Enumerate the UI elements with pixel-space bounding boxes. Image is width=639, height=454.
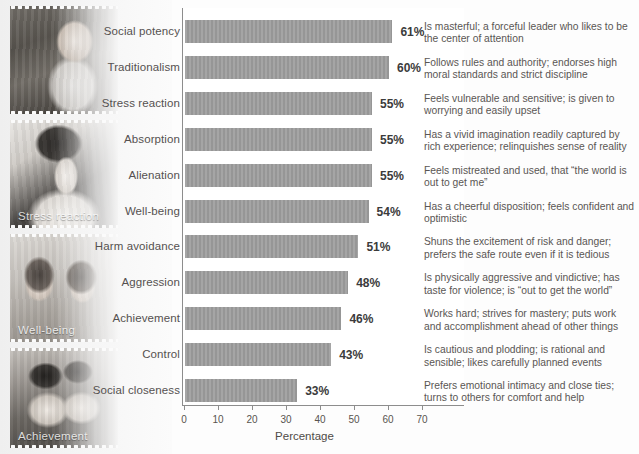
trait-description: Has a cheerful disposition; feels confid…	[424, 201, 636, 226]
category-label: Social potency	[4, 25, 180, 37]
value-label: 55%	[380, 169, 404, 183]
category-label: Absorption	[4, 133, 180, 145]
value-label: 61%	[400, 25, 424, 39]
value-label: 33%	[305, 384, 329, 398]
axis-tick-mark	[354, 406, 355, 410]
trait-description: Prefers emotional intimacy and close tie…	[424, 380, 636, 405]
trait-description: Shuns the excitement of risk and danger;…	[424, 236, 636, 261]
axis-tick-label: 0	[181, 414, 187, 425]
trait-description: Has a vivid imagination readily captured…	[424, 129, 636, 154]
category-label: Well-being	[4, 205, 180, 217]
bar	[185, 128, 372, 151]
value-label: 48%	[356, 276, 380, 290]
value-label: 54%	[377, 205, 401, 219]
bar	[185, 56, 389, 79]
axis-tick-mark	[252, 406, 253, 410]
trait-description: Feels vulnerable and sensitive; is given…	[424, 93, 636, 118]
category-label: Social closeness	[4, 384, 180, 396]
bar	[185, 379, 297, 402]
bar	[185, 271, 348, 294]
bar	[185, 200, 369, 223]
axis-tick-mark	[388, 406, 389, 410]
bar	[185, 235, 358, 258]
plot-area	[182, 8, 464, 406]
trait-description: Works hard; strives for mastery; puts wo…	[424, 308, 636, 333]
bar	[185, 307, 341, 330]
bar	[185, 92, 372, 115]
bar	[185, 164, 372, 187]
axis-tick-label: 40	[314, 414, 325, 425]
category-label: Stress reaction	[4, 97, 180, 109]
axis-tick-mark	[320, 406, 321, 410]
category-label: Traditionalism	[4, 61, 180, 73]
axis-tick-mark	[422, 406, 423, 410]
figure-root: Stress reaction Well-being Achievement S…	[0, 0, 639, 454]
x-axis: Percentage 010203040506070	[182, 406, 472, 452]
category-label: Alienation	[4, 169, 180, 181]
axis-tick-label: 70	[416, 414, 427, 425]
trait-description: Is physically aggressive and vindictive;…	[424, 272, 636, 297]
trait-description: Follows rules and authority; endorses hi…	[424, 57, 636, 82]
category-label: Control	[4, 348, 180, 360]
value-label: 60%	[397, 61, 421, 75]
axis-tick-mark	[184, 406, 185, 410]
trait-description: Feels mistreated and used, that “the wor…	[424, 165, 636, 190]
category-label: Harm avoidance	[4, 240, 180, 252]
axis-tick-mark	[286, 406, 287, 410]
axis-tick-mark	[218, 406, 219, 410]
value-label: 51%	[366, 240, 390, 254]
category-label: Aggression	[4, 276, 180, 288]
x-axis-title: Percentage	[182, 430, 427, 442]
axis-tick-label: 10	[212, 414, 223, 425]
bar	[185, 343, 331, 366]
trait-description: Is masterful; a forceful leader who like…	[424, 21, 636, 46]
bar-chart: Social potencyTraditionalismStress react…	[0, 0, 639, 454]
axis-tick-label: 50	[348, 414, 359, 425]
category-label-column: Social potencyTraditionalismStress react…	[0, 0, 180, 410]
value-label: 55%	[380, 97, 404, 111]
bar	[185, 20, 392, 43]
axis-tick-label: 60	[382, 414, 393, 425]
value-label: 55%	[380, 133, 404, 147]
trait-description: Is cautious and plodding; is rational an…	[424, 344, 636, 369]
value-label: 46%	[349, 312, 373, 326]
category-label: Achievement	[4, 312, 180, 324]
axis-tick-label: 30	[280, 414, 291, 425]
value-label: 43%	[339, 348, 363, 362]
axis-tick-label: 20	[246, 414, 257, 425]
